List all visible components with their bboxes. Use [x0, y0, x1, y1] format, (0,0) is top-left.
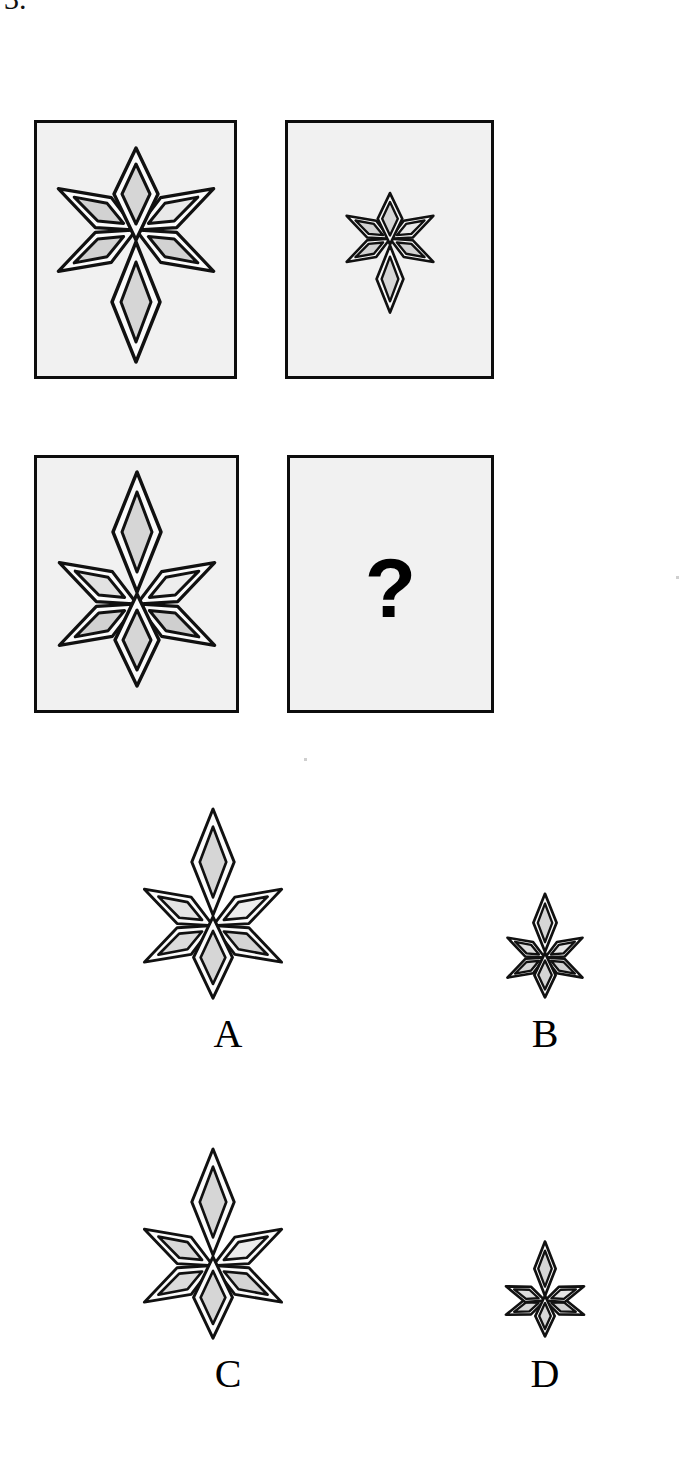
answer-option-b[interactable] [455, 880, 635, 1015]
scan-speck [304, 758, 307, 761]
matrix-cell-b2[interactable]: ? [287, 455, 494, 713]
scan-speck [676, 576, 679, 579]
star-figure-large-tail-up-icon [39, 464, 235, 704]
matrix-cell-a1-content [37, 123, 234, 376]
star-figure-large-tail-up-icon [85, 1142, 341, 1354]
star-figure-large-tail-up-icon [85, 802, 341, 1014]
answer-option-a-label: A [198, 1014, 258, 1054]
matrix-cell-a2-content [288, 123, 491, 376]
matrix-cell-b1[interactable] [34, 455, 239, 713]
matrix-cell-a2[interactable] [285, 120, 494, 379]
answer-option-c-label: C [198, 1354, 258, 1394]
star-figure-large-tail-down-icon [38, 130, 234, 370]
matrix-cell-a1[interactable] [34, 120, 237, 379]
answer-option-d[interactable] [455, 1220, 635, 1355]
answer-option-b-label: B [515, 1014, 575, 1054]
star-figure-small-tail-up-icon [475, 890, 615, 1006]
item-number: 3. [4, 0, 27, 14]
star-figure-small-tail-down-icon [335, 183, 445, 317]
answer-option-a[interactable] [83, 800, 343, 1015]
star-figure-small-tail-up-wide-icon [475, 1230, 615, 1346]
matrix-cell-b2-content: ? [290, 458, 491, 710]
answer-option-c[interactable] [83, 1140, 343, 1355]
question-mark: ? [365, 546, 416, 630]
answer-option-d-label: D [515, 1354, 575, 1394]
matrix-cell-b1-content [37, 458, 236, 710]
